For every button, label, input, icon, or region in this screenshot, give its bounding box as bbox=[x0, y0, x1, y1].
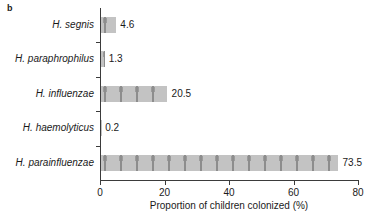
bar bbox=[101, 120, 102, 136]
y-axis-tick bbox=[96, 77, 100, 78]
x-axis-tick-label: 60 bbox=[288, 187, 299, 198]
bar-value-label: 20.5 bbox=[172, 86, 191, 102]
bar bbox=[101, 51, 105, 67]
bar-row: H. parainfluenzae 73.5 bbox=[100, 146, 358, 180]
x-axis-tick-label: 0 bbox=[97, 187, 103, 198]
figure-panel-b: b H. segnis 4.6 H. paraphrophilus 1.3 H.… bbox=[0, 0, 367, 219]
category-label: H. paraphrophilus bbox=[15, 51, 94, 67]
bar-pattern bbox=[101, 51, 105, 67]
bar-value-label: 4.6 bbox=[120, 17, 134, 33]
bar bbox=[101, 155, 338, 171]
bar-value-label: 73.5 bbox=[343, 155, 362, 171]
bar-row: H. segnis 4.6 bbox=[100, 8, 358, 42]
x-axis-title: Proportion of children colonized (%) bbox=[100, 200, 358, 211]
bar-row: H. paraphrophilus 1.3 bbox=[100, 42, 358, 76]
category-label: H. haemolyticus bbox=[23, 120, 94, 136]
y-axis-tick bbox=[96, 111, 100, 112]
y-axis-tick bbox=[96, 146, 100, 147]
x-axis-tick bbox=[100, 180, 101, 185]
bar bbox=[101, 86, 167, 102]
bar-value-label: 0.2 bbox=[105, 120, 119, 136]
x-axis-tick-label: 40 bbox=[223, 187, 234, 198]
x-axis-tick-label: 80 bbox=[352, 187, 363, 198]
x-axis-tick bbox=[294, 180, 295, 185]
panel-label: b bbox=[7, 4, 13, 13]
bar-value-label: 1.3 bbox=[109, 51, 123, 67]
y-axis-tick bbox=[96, 42, 100, 43]
bar-pattern bbox=[101, 86, 167, 102]
x-axis-tick bbox=[358, 180, 359, 185]
plot-area: H. segnis 4.6 H. paraphrophilus 1.3 H. i… bbox=[100, 8, 358, 180]
category-label: H. influenzae bbox=[36, 86, 94, 102]
bar-row: H. haemolyticus 0.2 bbox=[100, 111, 358, 145]
bar-pattern bbox=[101, 17, 116, 33]
bar bbox=[101, 17, 116, 33]
bar-pattern bbox=[101, 155, 338, 171]
bar-pattern bbox=[101, 120, 102, 136]
x-axis-tick-label: 20 bbox=[159, 187, 170, 198]
x-axis-tick bbox=[229, 180, 230, 185]
bar-row: H. influenzae 20.5 bbox=[100, 77, 358, 111]
category-label: H. segnis bbox=[52, 17, 94, 33]
x-axis-tick bbox=[165, 180, 166, 185]
category-label: H. parainfluenzae bbox=[16, 155, 94, 171]
